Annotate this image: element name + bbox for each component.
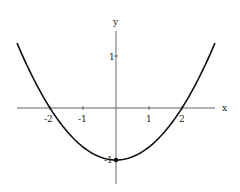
x-axis-label: x xyxy=(222,103,227,113)
x-tick-label: -2 xyxy=(44,114,53,124)
x-tick-label: 1 xyxy=(146,114,152,124)
parabola-chart: -2 -1 1 2 1 -1 x y xyxy=(0,0,240,192)
x-tick-label: 2 xyxy=(179,114,185,124)
x-tick-label: -1 xyxy=(78,114,87,124)
vertex-point xyxy=(114,158,118,162)
y-axis-label: y xyxy=(112,17,119,27)
y-tick-label: 1 xyxy=(109,52,115,62)
